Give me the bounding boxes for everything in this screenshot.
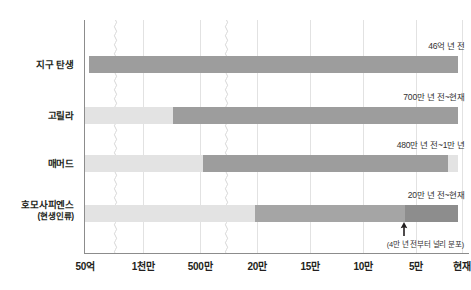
bar-segment-dark [173, 107, 458, 124]
bar-segment-medium [255, 205, 405, 222]
x-tick-label: 현재 [453, 258, 470, 273]
x-tick-label: 15만 [300, 258, 319, 273]
value-annotation: 480만 년 전~1만 년 [397, 138, 465, 150]
category-label: 호모사피엔스(현생인류) [21, 199, 74, 222]
bar-segment-light [85, 107, 173, 124]
bar-segment-light [85, 155, 203, 172]
x-axis-line [84, 253, 469, 254]
bar-segment-dark [405, 205, 458, 222]
category-label-sub: (현생인류) [21, 211, 74, 223]
x-tick-label: 10만 [353, 258, 372, 273]
arrow-up-icon [400, 222, 408, 236]
category-label-main: 지구 탄생 [36, 59, 74, 70]
category-label: 지구 탄생 [36, 59, 74, 71]
bar-segment-dark [203, 155, 448, 172]
category-label-main: 호모사피엔스 [21, 199, 74, 210]
bar-segment-light [448, 155, 458, 172]
category-label: 매머드 [48, 158, 74, 170]
category-label: 고릴라 [48, 110, 74, 122]
value-annotation: 700만 년 전~현재 [403, 90, 465, 102]
x-tick-label: 1천만 [132, 258, 155, 273]
bar-segment-light [85, 205, 255, 222]
x-tick-label: 500만 [188, 258, 213, 273]
x-tick-label: 20만 [247, 258, 266, 273]
value-annotation: 20만 년 전~현재 [408, 188, 465, 200]
category-label-main: 고릴라 [48, 110, 74, 121]
x-tick-label: 50억 [75, 258, 94, 273]
x-tick-label: 5만 [409, 258, 423, 273]
category-label-main: 매머드 [48, 158, 74, 169]
footnote-text: (4만 년 전부터 널리 분포) [387, 238, 464, 249]
bar-segment-dark [89, 56, 458, 73]
value-annotation: 46억 년 전 [428, 39, 465, 51]
